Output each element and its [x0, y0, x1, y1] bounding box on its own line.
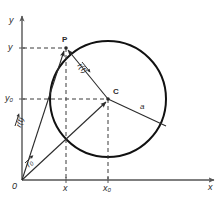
tick-label-y: y [8, 43, 13, 52]
diagram-canvas [0, 0, 222, 200]
tick-label-y0: y0 [5, 94, 13, 103]
point-c-dot [106, 97, 110, 101]
point-label-c: C [113, 88, 119, 96]
tick-label-x0: x0 [103, 184, 111, 193]
radius-label-a: a [140, 103, 144, 111]
origin-label: 0 [12, 182, 17, 191]
geometry-figure: y x 0 y y0 x x0 P C r(t) [0, 0, 222, 200]
vector-r-of-t-c-to-p [68, 50, 108, 99]
axis-x-label: x [208, 183, 213, 192]
guide-lines [23, 48, 108, 179]
tick-label-x0-subscript: 0 [108, 187, 111, 193]
point-label-p: P [62, 36, 67, 44]
tick-label-x: x [63, 184, 68, 193]
radius-segment-a [108, 99, 166, 126]
axis-y-label: y [9, 16, 14, 25]
tick-label-y0-subscript: 0 [10, 97, 13, 103]
point-p-dot [64, 46, 68, 50]
